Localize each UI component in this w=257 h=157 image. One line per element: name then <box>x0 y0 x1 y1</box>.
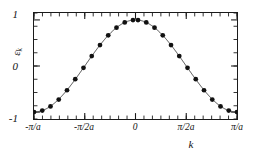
x-tick-label-pi-over-2a: π/2a <box>163 123 209 133</box>
axis-major-ticks <box>34 13 237 119</box>
dispersion-chart-figure: εk 1 0 -1 -π/a -π/2a 0 π/2a π/a k <box>0 0 257 157</box>
x-axis-title: k <box>178 138 204 150</box>
plot-svg <box>34 13 237 119</box>
data-point-markers <box>34 18 237 115</box>
x-tick-label-neg-pi-over-2a: -π/2a <box>61 123 107 133</box>
y-axis-title-subscript: k <box>15 48 24 51</box>
cosine-curve <box>34 20 237 112</box>
x-tick-label-zero: 0 <box>112 123 158 133</box>
y-tick-label-1: 1 <box>0 9 18 20</box>
x-tick-label-neg-pi-over-a: -π/a <box>10 123 56 133</box>
plot-area <box>33 12 238 120</box>
y-axis-title-text: ε <box>10 52 22 56</box>
x-tick-label-pi-over-a: π/a <box>214 123 257 133</box>
y-tick-label-0: 0 <box>0 61 18 72</box>
axis-minor-ticks <box>34 13 237 119</box>
